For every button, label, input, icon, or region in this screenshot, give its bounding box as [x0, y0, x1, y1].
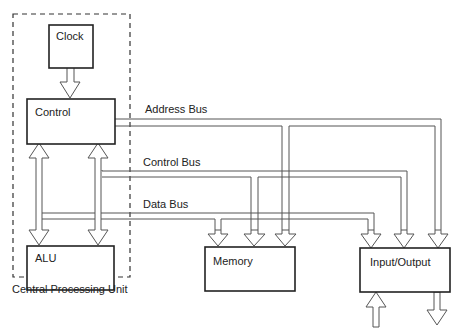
- address-bus-label: Address Bus: [145, 104, 207, 115]
- control-alu-right-arrow: [88, 143, 108, 245]
- clock-label: Clock: [56, 31, 84, 42]
- cpu-group-label: Central Processing Unit: [12, 284, 128, 295]
- io-box: [360, 248, 450, 292]
- io-control-arrow: [394, 230, 414, 248]
- control-bus-label: Control Bus: [143, 157, 200, 168]
- control-label: Control: [35, 107, 70, 118]
- memory-box: [205, 247, 295, 291]
- io-data-arrow: [361, 230, 381, 248]
- data-bus: [42, 213, 374, 230]
- clock-control-arrow: [60, 67, 80, 98]
- io-output-arrow: [427, 292, 447, 325]
- memory-address-arrow: [275, 230, 296, 246]
- data-bus-label: Data Bus: [143, 199, 188, 210]
- control-alu-left-arrow: [29, 143, 49, 245]
- io-input-arrow: [366, 292, 386, 327]
- memory-label: Memory: [213, 256, 253, 267]
- alu-label: ALU: [35, 253, 56, 264]
- io-label: Input/Output: [370, 257, 431, 268]
- memory-control-arrow: [244, 230, 265, 246]
- io-address-arrow: [428, 230, 448, 248]
- memory-data-arrow: [208, 230, 228, 246]
